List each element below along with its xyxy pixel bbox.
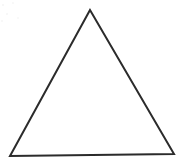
triangle-figure	[0, 0, 184, 165]
figure-canvas	[0, 0, 184, 165]
triangle-shape	[10, 10, 174, 156]
